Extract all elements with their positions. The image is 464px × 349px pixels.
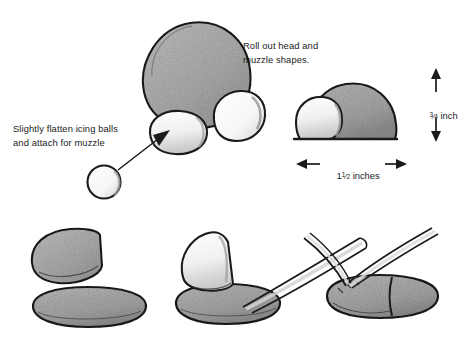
height-unit: inch bbox=[438, 110, 458, 121]
figure-icing-ball bbox=[88, 166, 121, 199]
annotation-roll-out-line2: muzzle shapes. bbox=[243, 53, 310, 67]
annotation-flatten-line1: Slightly flatten icing balls bbox=[13, 122, 118, 136]
annotation-roll-out-line1: Roll out head and bbox=[243, 39, 318, 53]
figure-bottom-left bbox=[32, 229, 146, 327]
illustration-page: Roll out head and muzzle shapes. Slightl… bbox=[0, 0, 464, 349]
dimension-label-width: 11⁄2 inches bbox=[326, 159, 380, 192]
illustration-artwork bbox=[0, 0, 464, 349]
annotation-flatten-line2: and attach for muzzle bbox=[13, 136, 105, 150]
width-unit: inches bbox=[350, 170, 380, 181]
dimension-label-height: 3⁄4 inch bbox=[419, 99, 458, 132]
figure-head-side bbox=[294, 83, 397, 139]
